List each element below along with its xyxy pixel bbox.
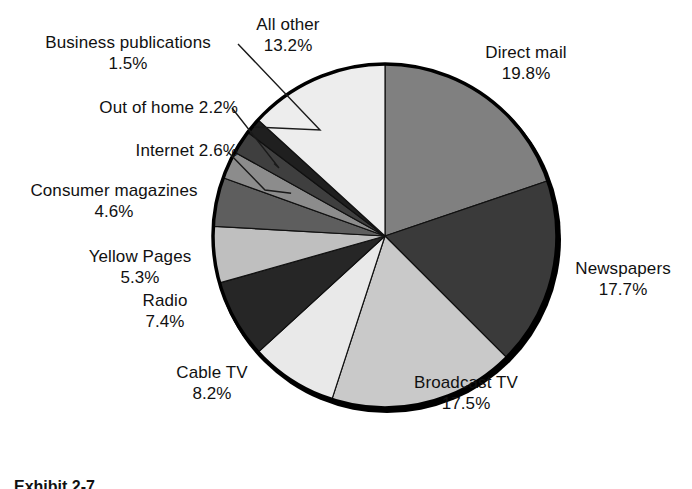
slice-label-name: Business publications: [18, 32, 238, 53]
figure-caption: Exhibit 2-7: [14, 478, 95, 489]
pie-chart-figure: Business publications 1.5% Out of home 2…: [0, 0, 692, 489]
slice-label-percent: 19.8%: [456, 63, 596, 84]
slice-label-internet: Internet 2.6%: [18, 140, 238, 161]
slice-label-consumer-magazines: Consumer magazines 4.6%: [8, 180, 220, 222]
slice-label-name: Radio: [110, 290, 220, 311]
slice-label-cable-tv: Cable TV 8.2%: [152, 362, 272, 404]
slice-label-broadcast-tv: Broadcast TV 17.5%: [386, 372, 546, 414]
slice-label-name: All other: [228, 14, 348, 35]
slice-label-all-other: All other 13.2%: [228, 14, 348, 56]
slice-label-percent: 4.6%: [8, 201, 220, 222]
slice-label-name: Broadcast TV: [386, 372, 546, 393]
slice-label-percent: 5.3%: [60, 267, 220, 288]
slice-label-percent: 8.2%: [152, 383, 272, 404]
slice-label-direct-mail: Direct mail 19.8%: [456, 42, 596, 84]
slice-label-name: Yellow Pages: [60, 246, 220, 267]
slice-label-name: Newspapers: [560, 258, 686, 279]
slice-label-percent: 7.4%: [110, 311, 220, 332]
slice-label-percent: 17.5%: [386, 393, 546, 414]
slice-label-name: Direct mail: [456, 42, 596, 63]
slice-label-name: Internet: [136, 141, 194, 160]
slice-label-yellow-pages: Yellow Pages 5.3%: [60, 246, 220, 288]
slice-label-percent: 2.2%: [199, 98, 238, 117]
slice-label-percent: 2.6%: [199, 141, 238, 160]
slice-label-out-of-home: Out of home 2.2%: [18, 97, 238, 118]
slice-label-radio: Radio 7.4%: [110, 290, 220, 332]
slice-label-name: Out of home: [99, 98, 194, 117]
slice-label-percent: 17.7%: [560, 279, 686, 300]
slice-label-business-publications: Business publications 1.5%: [18, 32, 238, 74]
slice-label-name: Consumer magazines: [8, 180, 220, 201]
slice-label-name: Cable TV: [152, 362, 272, 383]
slice-label-newspapers: Newspapers 17.7%: [560, 258, 686, 300]
slice-label-percent: 13.2%: [228, 35, 348, 56]
slice-label-percent: 1.5%: [18, 53, 238, 74]
